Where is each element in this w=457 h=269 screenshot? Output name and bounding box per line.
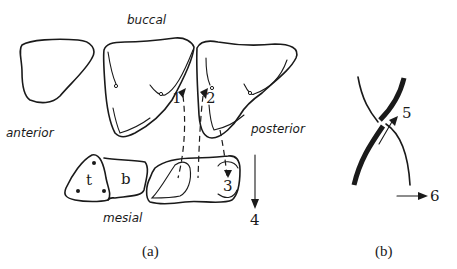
- cusp-marker: [248, 91, 251, 94]
- mesial-label: mesial: [103, 211, 143, 225]
- number-3: 3: [223, 177, 233, 195]
- panel-a: buccal anterior posterior 1 2: [6, 13, 306, 260]
- upper-thin-curve: [358, 77, 378, 122]
- arrowhead-6-icon: [418, 192, 428, 200]
- lower-tooth-facet: [152, 162, 191, 198]
- dashed-path-1: [178, 96, 185, 178]
- caption-b: (b): [375, 243, 393, 260]
- posterior-label: posterior: [250, 122, 306, 136]
- middle-tooth-ridge: [108, 52, 116, 84]
- arrowhead-4-icon: [251, 199, 259, 209]
- lower-tooth-arc-top: [218, 162, 238, 168]
- number-6: 6: [430, 187, 440, 205]
- tooth-occlusion-diagram: buccal anterior posterior 1 2: [0, 0, 457, 269]
- caption-a: (a): [142, 243, 159, 260]
- number-2: 2: [206, 89, 216, 107]
- label-t: t: [86, 171, 92, 189]
- point-marker: [92, 161, 96, 165]
- label-b: b: [121, 170, 131, 188]
- point-marker: [76, 189, 80, 193]
- middle-tooth-ridge-3: [113, 108, 150, 133]
- upper-thick-stroke: [380, 78, 404, 120]
- point-marker: [102, 189, 106, 193]
- number-5: 5: [402, 104, 412, 122]
- cusp-marker: [114, 84, 117, 87]
- cusp-marker: [159, 92, 162, 95]
- buccal-label: buccal: [127, 13, 167, 27]
- panel-b: 5 6 (b): [354, 77, 440, 260]
- anterior-label: anterior: [6, 126, 55, 140]
- anterior-tooth-outline: [20, 39, 94, 102]
- lower-thick-stroke: [354, 126, 383, 185]
- number-4: 4: [250, 211, 260, 229]
- lower-thin-curve: [386, 124, 410, 185]
- posterior-tooth-ridge: [206, 58, 210, 85]
